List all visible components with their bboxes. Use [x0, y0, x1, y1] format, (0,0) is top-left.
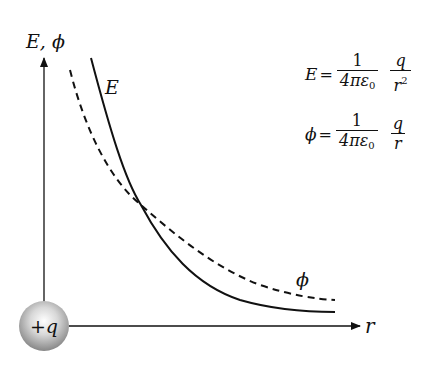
fraction-numerator: q [390, 115, 406, 133]
denominator-text: 4πε [340, 71, 369, 90]
fraction-denominator: 4πε0 [337, 70, 379, 96]
fraction-denominator: r [391, 133, 405, 154]
fraction-numerator: 1 [350, 52, 366, 70]
y-axis-label: E, ϕ [26, 30, 65, 52]
denominator-text: r [393, 76, 401, 95]
point-charge: +q [19, 301, 69, 351]
fraction-numerator: q [392, 52, 408, 70]
e-curve-label: E [105, 76, 119, 98]
epsilon-subscript: 0 [369, 80, 375, 91]
constant-fraction: 1 4πε0 [337, 52, 379, 96]
potential-formula: ϕ = 1 4πε0 q r [305, 112, 410, 156]
charge-fraction: q r [390, 115, 406, 154]
constant-fraction: 1 4πε0 [336, 112, 378, 156]
epsilon-subscript: 0 [368, 140, 374, 151]
equals-sign: = [319, 65, 332, 84]
charge-fraction: q r2 [390, 52, 410, 96]
formula-lhs: ϕ [305, 124, 317, 144]
field-formula: E = 1 4πε0 q r2 [305, 52, 415, 96]
x-axis-label: r [365, 314, 375, 338]
denominator-text: 4πε [339, 131, 368, 150]
r-exponent: 2 [401, 75, 407, 86]
fraction-numerator: 1 [349, 112, 365, 130]
charge-label: +q [30, 315, 58, 337]
potential-curve [70, 70, 335, 300]
fraction-denominator: 4πε0 [336, 130, 378, 156]
formula-lhs: E [305, 64, 317, 84]
equals-sign: = [319, 125, 332, 144]
fraction-denominator: r2 [390, 70, 410, 96]
denominator-text: r [394, 134, 402, 153]
phi-curve-label: ϕ [296, 268, 309, 290]
